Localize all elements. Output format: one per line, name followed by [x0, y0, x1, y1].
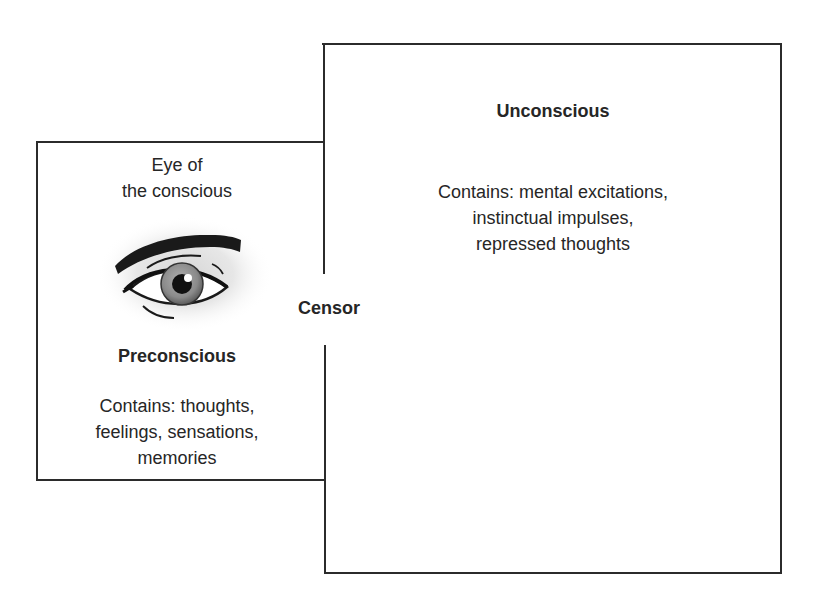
preconscious-contents-line-3: memories [57, 445, 297, 471]
unconscious-box-top-border [322, 43, 782, 45]
eye-label-line-2: the conscious [77, 178, 277, 204]
censor-label: Censor [279, 295, 379, 321]
preconscious-contents-line-1: Contains: thoughts, [57, 393, 297, 419]
unconscious-contents-line-2: instinctual impulses, [393, 205, 713, 231]
unconscious-contents-line-3: repressed thoughts [393, 231, 713, 257]
preconscious-box-bottom-border [36, 479, 326, 481]
preconscious-title: Preconscious [77, 343, 277, 369]
unconscious-title: Unconscious [453, 98, 653, 124]
preconscious-box-left-border [36, 141, 38, 481]
preconscious-contents-line-2: feelings, sensations, [57, 419, 297, 445]
preconscious-box-top-border [36, 141, 324, 143]
unconscious-box-bottom-border [324, 572, 782, 574]
eye-icon [95, 208, 275, 330]
unconscious-box-left-border-lower [324, 345, 326, 574]
eye-label-line-1: Eye of [77, 152, 277, 178]
unconscious-box-right-border [780, 43, 782, 574]
unconscious-box-left-border-upper [323, 43, 325, 274]
unconscious-contents-line-1: Contains: mental excitations, [393, 179, 713, 205]
